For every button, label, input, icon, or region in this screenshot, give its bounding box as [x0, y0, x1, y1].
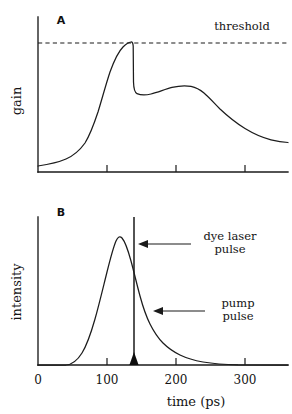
- x-tick-label-100: 100: [96, 373, 119, 387]
- gain-curve: [38, 42, 288, 166]
- dye-laser-pulse-marker: [129, 352, 138, 365]
- panel-a: threshold A: [38, 14, 288, 172]
- figure-root: threshold A B: [0, 0, 292, 414]
- panel-letter-b: B: [57, 206, 65, 219]
- x-tick-labels: 0 100 200 300: [34, 373, 256, 387]
- threshold-label: threshold: [214, 19, 270, 33]
- x-tick-label-200: 200: [165, 373, 188, 387]
- x-axis-label: time (ps): [167, 394, 226, 409]
- panel-a-y-axis-label: gain: [9, 86, 24, 115]
- pump-pulse-label-line1: pump: [221, 296, 254, 310]
- pump-pulse-annotation: pump pulse: [153, 296, 255, 323]
- x-tick-label-0: 0: [34, 373, 42, 387]
- dye-laser-label-line1: dye laser: [203, 229, 257, 243]
- panel-b-y-axis-label: intensity: [9, 263, 24, 321]
- pump-pulse-label-line2: pulse: [222, 309, 253, 323]
- panel-letter-a: A: [57, 14, 66, 27]
- dye-laser-label-line2: pulse: [214, 242, 245, 256]
- figure-canvas: threshold A B: [0, 0, 292, 414]
- dye-laser-arrow-icon: [138, 240, 148, 248]
- x-tick-label-300: 300: [234, 373, 257, 387]
- panel-a-x-ticks: [107, 165, 245, 172]
- pump-pulse-arrow-icon: [153, 307, 163, 315]
- panel-b: B dye laser pulse: [34, 206, 288, 409]
- dye-laser-pulse-annotation: dye laser pulse: [138, 229, 257, 256]
